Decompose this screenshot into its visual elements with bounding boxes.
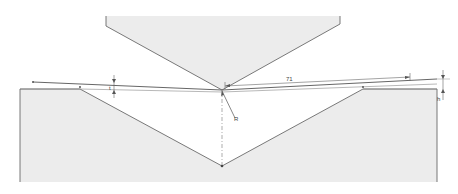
radius-label: R bbox=[234, 116, 239, 122]
right-height-dimension: h bbox=[437, 70, 450, 102]
right-height-label: h bbox=[437, 96, 440, 102]
left-thickness-label: t bbox=[109, 85, 111, 91]
flange-length-dimension: 71 bbox=[225, 73, 410, 89]
radius-dimension: R bbox=[221, 91, 239, 122]
left-thickness-dimension: t bbox=[109, 75, 116, 98]
bending-diagram: t 71 R h bbox=[0, 0, 458, 194]
punch bbox=[106, 16, 340, 90]
flange-length-label: 71 bbox=[286, 76, 293, 82]
v-die bbox=[20, 89, 437, 182]
